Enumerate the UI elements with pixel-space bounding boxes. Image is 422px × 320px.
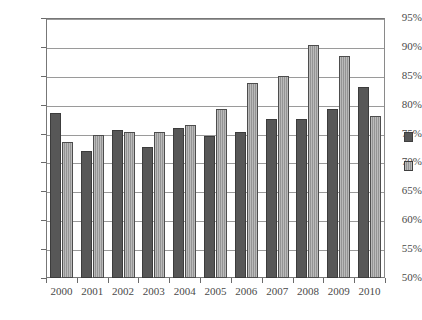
y-axis-label: 90% bbox=[382, 41, 422, 52]
y-axis-label: 95% bbox=[382, 12, 422, 23]
bar[interactable] bbox=[154, 132, 165, 278]
bar-group bbox=[81, 18, 104, 278]
bar[interactable] bbox=[124, 132, 135, 278]
bar[interactable] bbox=[358, 87, 369, 278]
legend-item[interactable] bbox=[404, 161, 422, 171]
bar[interactable] bbox=[370, 116, 381, 278]
bar[interactable] bbox=[327, 109, 338, 278]
y-axis-label: 85% bbox=[382, 70, 422, 81]
bar[interactable] bbox=[185, 125, 196, 278]
bar[interactable] bbox=[81, 151, 92, 278]
legend-swatch-icon bbox=[404, 161, 413, 171]
x-axis-tick bbox=[323, 278, 324, 283]
y-axis-label: 50% bbox=[382, 272, 422, 283]
bar[interactable] bbox=[278, 76, 289, 278]
x-axis-tick bbox=[262, 278, 263, 283]
bar-group bbox=[358, 18, 381, 278]
x-axis-tick bbox=[231, 278, 232, 283]
bar[interactable] bbox=[50, 113, 61, 278]
bar-group bbox=[296, 18, 319, 278]
legend-swatch-icon bbox=[404, 132, 413, 142]
bar-group bbox=[204, 18, 227, 278]
bar[interactable] bbox=[93, 135, 104, 278]
x-axis-tick bbox=[293, 278, 294, 283]
x-axis-tick bbox=[138, 278, 139, 283]
x-axis-tick bbox=[77, 278, 78, 283]
x-axis-label: 2010 bbox=[350, 285, 390, 297]
bar[interactable] bbox=[266, 119, 277, 278]
bar-group bbox=[142, 18, 165, 278]
bar[interactable] bbox=[247, 83, 258, 278]
y-axis-label: 60% bbox=[382, 214, 422, 225]
x-axis-tick bbox=[385, 278, 386, 283]
bar-group bbox=[50, 18, 73, 278]
bar[interactable] bbox=[308, 45, 319, 278]
y-axis-label: 55% bbox=[382, 243, 422, 254]
bar[interactable] bbox=[112, 130, 123, 278]
bar[interactable] bbox=[235, 132, 246, 278]
bar-group bbox=[173, 18, 196, 278]
bars-layer bbox=[46, 18, 385, 278]
bar[interactable] bbox=[296, 119, 307, 278]
bar[interactable] bbox=[216, 109, 227, 278]
bar[interactable] bbox=[339, 56, 350, 278]
bar[interactable] bbox=[204, 136, 215, 278]
bar[interactable] bbox=[142, 147, 153, 278]
legend-item[interactable] bbox=[404, 132, 422, 142]
bar[interactable] bbox=[173, 128, 184, 278]
x-axis-tick bbox=[169, 278, 170, 283]
bar-group bbox=[235, 18, 258, 278]
bar[interactable] bbox=[62, 142, 73, 278]
y-axis-label: 80% bbox=[382, 99, 422, 110]
x-axis-tick bbox=[200, 278, 201, 283]
x-axis-tick bbox=[46, 278, 47, 283]
x-axis-tick bbox=[354, 278, 355, 283]
x-axis-tick bbox=[108, 278, 109, 283]
bar-group bbox=[266, 18, 289, 278]
bar-chart: 50%55%60%65%70%75%80%85%90%95% 200020012… bbox=[0, 0, 422, 320]
bar-group bbox=[112, 18, 135, 278]
chart-legend bbox=[404, 132, 422, 190]
bar-group bbox=[327, 18, 350, 278]
